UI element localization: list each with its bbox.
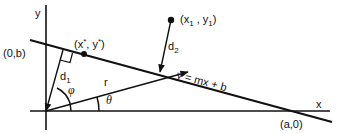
line-equation-label: y = mx + b	[175, 68, 228, 93]
d2-label: d2	[168, 40, 179, 55]
r-label: r	[104, 76, 108, 88]
theta-arc	[97, 97, 99, 111]
x-axis-label: x	[316, 98, 322, 110]
foot-point-label: (x*, y*)	[74, 37, 105, 50]
y-axis-label: y	[35, 7, 41, 19]
theta-label: θ	[106, 93, 112, 107]
foot-point-marker	[81, 51, 87, 57]
external-point-label: (x1 , y1)	[180, 13, 216, 28]
line-distance-diagram: y x (0,b) (a,0) (x*, y*) (x1 , y1) d1 d2…	[0, 0, 348, 134]
external-point-marker	[168, 17, 174, 23]
phi-label: φ	[68, 83, 75, 97]
y-intercept-label: (0,b)	[3, 47, 26, 59]
x-intercept-label: (a,0)	[280, 118, 303, 130]
